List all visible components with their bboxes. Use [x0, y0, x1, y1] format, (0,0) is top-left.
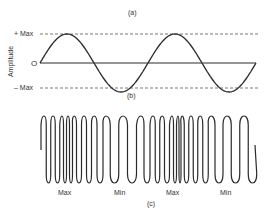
panel-c-label: (c) — [147, 200, 155, 207]
annotation-max-1: Max — [58, 189, 71, 196]
annotation-min-2: Min — [220, 189, 231, 196]
fm-wave — [41, 116, 257, 183]
annotation-min-1: Min — [114, 189, 125, 196]
annotation-max-2: Max — [166, 189, 179, 196]
